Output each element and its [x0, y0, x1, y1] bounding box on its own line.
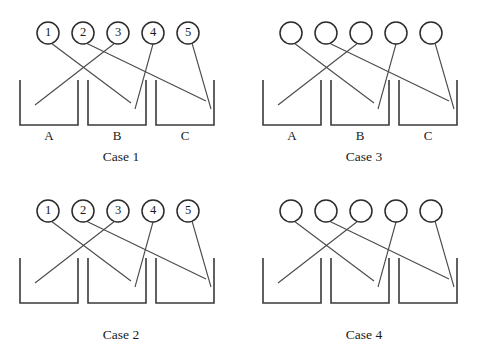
- ball-circle-2: [315, 200, 337, 222]
- ball-circle-2: [315, 22, 337, 44]
- panel-case-2: 12345Case 2: [0, 178, 243, 356]
- ball-label: 5: [185, 203, 191, 217]
- connector-line-1: [294, 43, 374, 103]
- box-1: [263, 80, 321, 125]
- ball-label: 1: [45, 203, 51, 217]
- box-label: C: [424, 128, 433, 143]
- connector-line-3: [278, 43, 358, 105]
- case-caption: Case 2: [103, 327, 139, 342]
- box-label: A: [287, 128, 297, 143]
- case-caption: Case 1: [103, 149, 139, 164]
- cases-figure: ABC12345Case 1ABCCase 312345Case 2Case 4: [0, 0, 486, 357]
- ball-label: 3: [115, 203, 121, 217]
- panel-case-4: Case 4: [243, 178, 486, 356]
- box-3: [399, 80, 457, 125]
- connector-line-4: [135, 222, 153, 287]
- ball-circle-1: [280, 200, 302, 222]
- box-1: [20, 258, 78, 303]
- box-3: [156, 258, 214, 303]
- panel-case-3: ABCCase 3: [243, 0, 486, 178]
- ball-circle-3: [350, 200, 372, 222]
- ball-label: 4: [150, 203, 157, 217]
- box-1: [263, 258, 321, 303]
- connector-line-1: [294, 221, 374, 281]
- connector-line-1: [51, 43, 131, 103]
- box-label: A: [44, 128, 54, 143]
- ball-circle-4: [385, 200, 407, 222]
- ball-label: 1: [45, 25, 51, 39]
- ball-circle-1: [280, 22, 302, 44]
- ball-label: 2: [80, 25, 86, 39]
- box-label: B: [113, 128, 122, 143]
- box-3: [399, 258, 457, 303]
- connector-line-1: [51, 221, 131, 281]
- ball-circle-4: [385, 22, 407, 44]
- connector-line-4: [378, 44, 396, 109]
- connector-line-4: [135, 44, 153, 109]
- connector-line-3: [278, 221, 358, 283]
- connector-line-3: [35, 221, 115, 283]
- box-label: C: [181, 128, 190, 143]
- box-1: [20, 80, 78, 125]
- box-3: [156, 80, 214, 125]
- ball-circle-5: [420, 22, 442, 44]
- case-caption: Case 4: [346, 327, 383, 342]
- connector-line-4: [378, 222, 396, 287]
- ball-circle-3: [350, 22, 372, 44]
- connector-line-3: [35, 43, 115, 105]
- ball-label: 4: [150, 25, 157, 39]
- case-caption: Case 3: [346, 149, 383, 164]
- panel-case-1: ABC12345Case 1: [0, 0, 243, 178]
- ball-label: 2: [80, 203, 86, 217]
- ball-label: 5: [185, 25, 191, 39]
- ball-circle-5: [420, 200, 442, 222]
- box-label: B: [356, 128, 365, 143]
- ball-label: 3: [115, 25, 121, 39]
